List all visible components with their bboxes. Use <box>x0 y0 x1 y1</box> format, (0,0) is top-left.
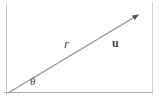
vector-ray <box>8 15 138 93</box>
vector-label: u <box>112 37 119 49</box>
diagram-canvas <box>0 0 159 99</box>
angle-label-theta: θ <box>30 76 35 87</box>
vector-diagram-figure: r u θ <box>0 0 159 99</box>
radius-label: r <box>64 37 69 50</box>
